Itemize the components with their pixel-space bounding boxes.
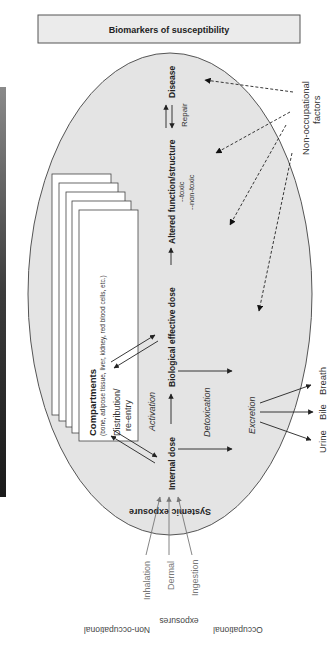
excretion-route-breath: Breath [317, 367, 328, 395]
altered-function-label: Altered function/structure [167, 139, 177, 244]
systemic-exposure-label: Systemic exposure [129, 507, 211, 517]
ingestion-label: Ingestion [190, 559, 200, 596]
excretion-label: Excretion [247, 396, 257, 434]
excretion-route-bile: Bile [317, 404, 328, 420]
excretion-route-urine: Urine [317, 430, 328, 453]
non-occupational-exposure-label: Non-occupational [84, 625, 150, 635]
detoxication-label: Detoxication [202, 387, 212, 437]
distribution-label-1: Distribution/ [112, 388, 122, 436]
side-gradient-bar [0, 87, 6, 497]
exposures-label: exposures [159, 616, 198, 626]
diagram-canvas: Biomarkers of susceptibility Compartment… [0, 0, 332, 671]
activation-label: Activation [147, 392, 157, 432]
biological-effective-dose-label: Biological effective dose [167, 287, 177, 387]
dermal-label: Dermal [166, 561, 176, 590]
occupational-exposure-label: Occupational [213, 625, 263, 635]
internal-dose-label: Internal dose [167, 437, 177, 490]
compartments-title: Compartments [87, 369, 98, 436]
non-occupational-factors-line2: factors [311, 95, 322, 124]
distribution-label-2: re-entry [123, 399, 133, 431]
compartments-subtitle: (bone, adipose tissue, liver, kidney, re… [99, 275, 107, 436]
repair-label: Repair [180, 103, 189, 127]
non-occupational-factors-line1: Non-occupational [300, 81, 311, 155]
inhalation-label: Inhalation [142, 561, 152, 600]
biomarkers-header-box: Biomarkers of susceptibility [38, 15, 300, 43]
non-toxic-label: --non-toxic [187, 174, 196, 210]
toxic-label: --toxic [177, 181, 186, 202]
disease-label: Disease [167, 66, 177, 98]
header-title: Biomarkers of susceptibility [109, 25, 230, 35]
